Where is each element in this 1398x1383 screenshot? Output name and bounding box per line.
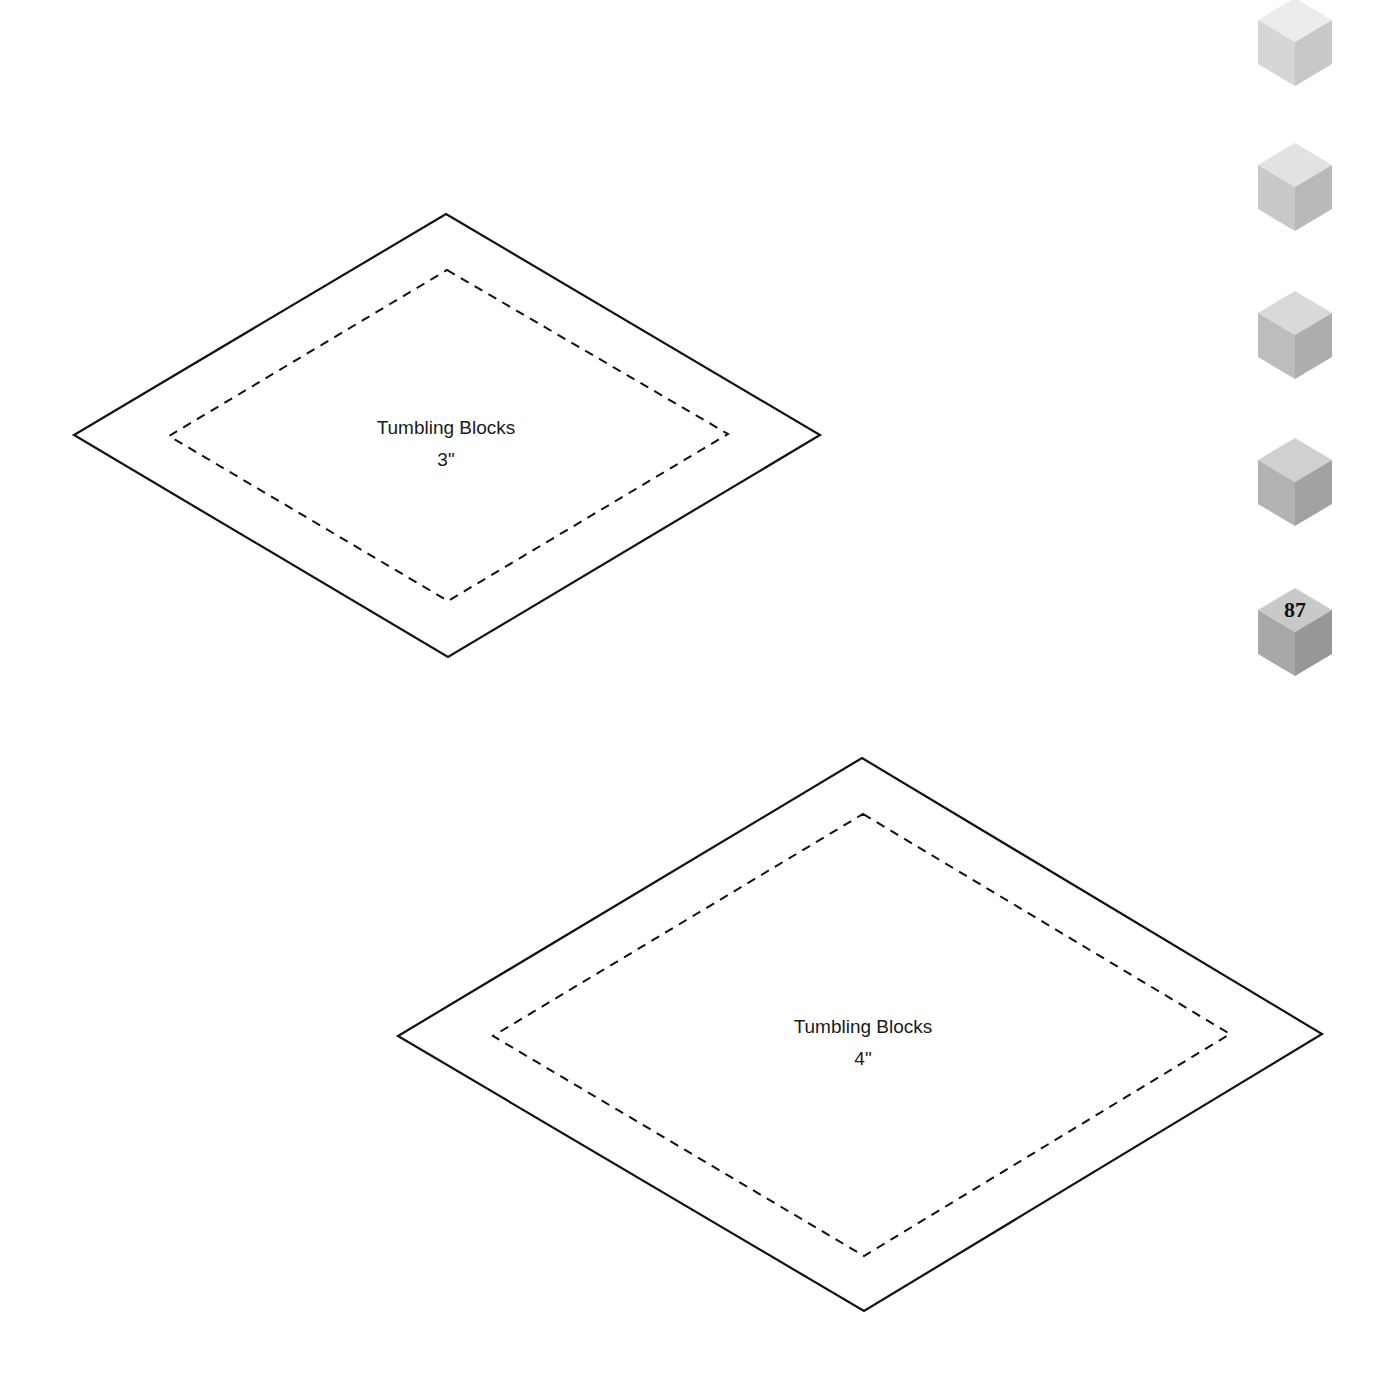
cube-tab-icon — [1258, 143, 1332, 231]
cube-tab-icon — [1258, 438, 1332, 526]
template-name: Tumbling Blocks — [794, 1014, 933, 1040]
template-label-3in: Tumbling Blocks 3" — [377, 415, 516, 473]
cube-tab-icon — [1258, 291, 1332, 379]
template-label-4in: Tumbling Blocks 4" — [794, 1014, 933, 1072]
page-artwork: 87 — [0, 0, 1398, 1383]
template-size: 3" — [377, 447, 516, 473]
page-number: 87 — [1284, 597, 1306, 622]
page-number-cube: 87 — [1258, 588, 1332, 676]
side-cube-tabs: 87 — [1258, 0, 1332, 676]
template-size: 4" — [794, 1046, 933, 1072]
template-name: Tumbling Blocks — [377, 415, 516, 441]
cube-tab-icon — [1258, 0, 1332, 86]
